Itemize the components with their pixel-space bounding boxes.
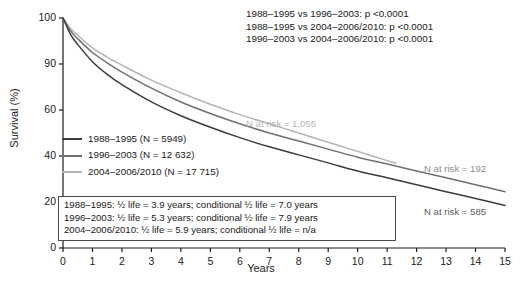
legend-item: 1988–1995 (N = 5949) [62,131,219,147]
y-tick-label: 20 [8,195,56,207]
legend-swatch-icon [62,171,82,173]
y-axis-title: Survival (%) [8,80,20,156]
legend-label: 1996–2003 (N = 12 632) [88,147,195,163]
y-tick-label: 0 [8,241,56,253]
legend-label: 2004–2006/2010 (N = 17 715) [88,164,219,180]
summary-line: 1996–2003: ½ life = 5.3 years; condition… [64,212,391,225]
n-at-risk-light-label: N at risk = 1,055 [246,118,316,129]
y-tick-label: 100 [8,11,56,23]
survival-chart: Survival (%) Years 1988–1995 vs 1996–200… [0,0,522,284]
summary-line: 2004–2006/2010: ½ life = 5.9 years; cond… [64,224,391,237]
chart-legend: 1988–1995 (N = 5949) 1996–2003 (N = 12 6… [62,131,219,180]
legend-item: 2004–2006/2010 (N = 17 715) [62,164,219,180]
p-value-line: 1988–1995 vs 2004–2006/2010: p <0.0001 [246,21,433,34]
legend-label: 1988–1995 (N = 5949) [88,131,186,147]
n-at-risk-mid-label: N at risk = 192 [424,163,486,174]
legend-item: 1996–2003 (N = 12 632) [62,147,219,163]
half-life-summary-box: 1988–1995: ½ life = 3.9 years; condition… [58,196,396,241]
y-tick-label: 60 [8,103,56,115]
summary-line: 1988–1995: ½ life = 3.9 years; condition… [64,199,391,212]
p-value-line: 1988–1995 vs 1996–2003: p <0.0001 [246,8,433,21]
legend-swatch-icon [62,155,82,157]
p-value-annotations: 1988–1995 vs 1996–2003: p <0.0001 1988–1… [246,8,433,46]
y-tick-label: 90 [8,57,56,69]
x-tick-label: 15 [485,255,522,267]
p-value-line: 1996–2003 vs 2004–2006/2010: p <0.0001 [246,33,433,46]
legend-swatch-icon [62,138,82,140]
y-tick-label: 40 [8,149,56,161]
n-at-risk-dark-label: N at risk = 585 [424,206,486,217]
